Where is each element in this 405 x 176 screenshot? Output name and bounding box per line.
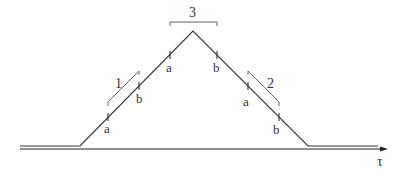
segment-label-2: 2 [267, 76, 274, 91]
segment-label-3: 3 [189, 5, 196, 20]
time-axis [20, 147, 388, 152]
profile-line [20, 31, 378, 146]
bracket-1 [108, 71, 139, 106]
axis-label-tau: τ [377, 154, 383, 169]
segment-label-1: 1 [115, 76, 122, 91]
marker-b-3: b [213, 60, 220, 75]
marker-a-2: a [243, 94, 249, 109]
trapezoid-diagram: τ a b a b a b 1 2 [0, 0, 405, 176]
marker-a-3: a [166, 60, 172, 75]
diagram-canvas: τ a b a b a b 1 2 [0, 0, 405, 176]
arrow-head-icon [380, 147, 388, 152]
marker-a-1: a [104, 121, 110, 136]
marker-b-1: b [136, 91, 143, 106]
tick-marks [108, 51, 279, 121]
bracket-3 [170, 22, 217, 26]
marker-b-2: b [273, 122, 280, 137]
